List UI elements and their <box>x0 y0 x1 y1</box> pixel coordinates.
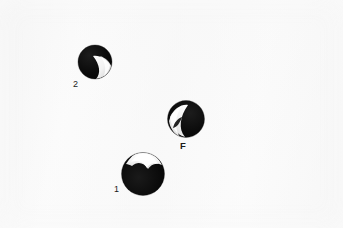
specimen-1-glyph <box>120 150 168 198</box>
specimen-f-glyph <box>166 99 208 141</box>
specimen-1-label: 1 <box>114 185 119 194</box>
specimen-f <box>166 99 208 141</box>
specimen-1 <box>120 150 168 198</box>
specimen-f-label: F <box>180 141 186 151</box>
specimen-2-label: 2 <box>73 80 78 89</box>
figure-canvas: 2 <box>0 0 343 228</box>
specimen-2-glyph <box>76 43 116 83</box>
specimen-2 <box>76 43 116 83</box>
